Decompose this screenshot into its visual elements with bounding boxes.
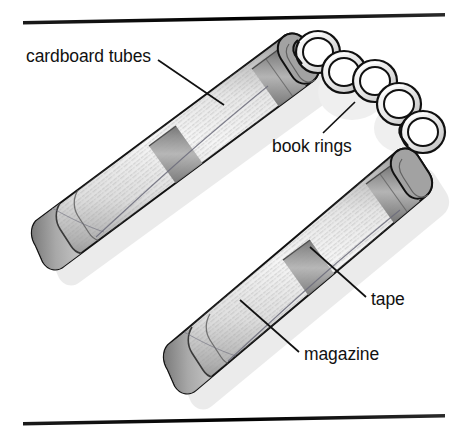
leader-cardboard-tubes — [158, 60, 224, 105]
label-book-rings: book rings — [272, 136, 352, 156]
nunchucks-illustration: cardboard tubes book rings tape magazine — [0, 0, 466, 438]
figure-canvas: cardboard tubes book rings tape magazine — [0, 0, 466, 438]
label-cardboard-tubes: cardboard tubes — [26, 46, 151, 66]
top-rule — [23, 13, 445, 25]
bottom-rule — [23, 414, 445, 426]
book-ring — [401, 111, 445, 153]
label-tape: tape — [371, 289, 405, 309]
label-magazine: magazine — [304, 344, 379, 364]
